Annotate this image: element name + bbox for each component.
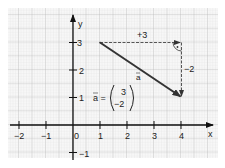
x-tick-label: 3 xyxy=(152,131,157,141)
vertical-component-label: −2 xyxy=(184,64,194,74)
y-tick-label: 1 xyxy=(79,93,84,103)
vector-start-point xyxy=(99,42,101,44)
y-axis-label: y xyxy=(78,19,83,29)
x-axis-label: x xyxy=(208,129,213,139)
grid-paper xyxy=(8,8,218,158)
formula-bottom: −2 xyxy=(114,99,124,109)
x-tick-label: 2 xyxy=(125,131,130,141)
formula-top: 3 xyxy=(121,87,126,97)
vector-label: a xyxy=(136,73,141,82)
y-tick-label: −1 xyxy=(79,149,89,159)
x-tick-label: −2 xyxy=(14,131,24,141)
y-tick-label: 3 xyxy=(77,38,82,48)
x-tick-label: 4 xyxy=(179,131,184,141)
horizontal-component-label: +3 xyxy=(137,30,147,40)
x-tick-label: 1 xyxy=(98,131,103,141)
x-tick-label: 0 xyxy=(74,131,79,141)
coordinate-diagram: −2 −1 0 1 2 3 4 −1 1 2 3 y x +3 −2 a a =… xyxy=(0,0,225,168)
x-tick-label: −1 xyxy=(41,131,51,141)
right-angle-dot-icon xyxy=(177,46,179,48)
formula-lhs: a = xyxy=(93,93,106,103)
y-tick-label: 2 xyxy=(79,66,84,76)
